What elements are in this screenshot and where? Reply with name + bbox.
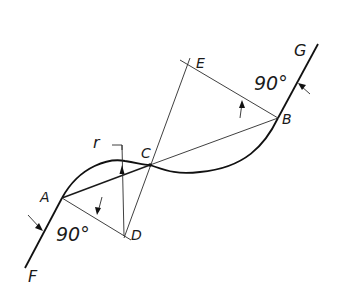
label-e: E bbox=[196, 55, 205, 71]
label-b: B bbox=[282, 111, 292, 127]
angle-arrow-a-icon bbox=[95, 207, 101, 215]
chord-cb bbox=[150, 118, 278, 165]
label-g: G bbox=[294, 41, 306, 60]
line-de bbox=[124, 58, 190, 238]
radius-arrow-icon bbox=[120, 165, 125, 174]
radius-line bbox=[122, 145, 124, 236]
label-c: C bbox=[141, 145, 151, 161]
radius-leader bbox=[112, 145, 122, 150]
label-d: D bbox=[131, 227, 142, 243]
angle-arrow-b-icon bbox=[239, 100, 245, 108]
label-a: A bbox=[39, 189, 50, 205]
point-c-dot bbox=[148, 163, 152, 167]
reverse-curve-diagram: A B C D E F G r 90° 90° bbox=[0, 0, 346, 289]
label-f: F bbox=[28, 267, 38, 286]
chord-ac bbox=[62, 165, 150, 198]
label-angle-b: 90° bbox=[254, 72, 288, 94]
label-angle-a: 90° bbox=[56, 223, 90, 245]
label-radius: r bbox=[93, 133, 101, 152]
